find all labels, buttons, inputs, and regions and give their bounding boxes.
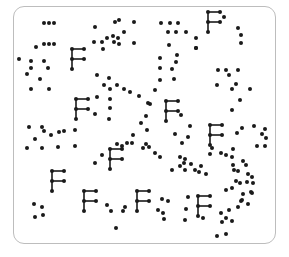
dot <box>102 83 106 87</box>
dot <box>125 141 129 145</box>
dot <box>101 47 105 51</box>
dot <box>183 218 187 222</box>
dot <box>52 42 56 46</box>
dot <box>216 68 220 72</box>
dot <box>168 21 172 25</box>
dot <box>238 181 242 185</box>
dot <box>186 135 190 139</box>
dot <box>263 127 267 131</box>
dot <box>141 146 145 150</box>
dot <box>95 73 99 77</box>
dot <box>114 226 118 230</box>
dot <box>105 203 109 207</box>
dot <box>170 67 174 71</box>
dot <box>52 21 56 25</box>
dot <box>246 172 250 176</box>
dot <box>158 66 162 70</box>
dot <box>49 133 53 137</box>
dot <box>219 151 223 155</box>
dot <box>204 172 208 176</box>
letter-f <box>208 123 224 147</box>
dot <box>220 220 224 224</box>
dot <box>111 34 115 38</box>
dot <box>179 113 183 117</box>
dot <box>108 97 112 101</box>
dot <box>42 42 46 46</box>
dot <box>161 211 165 215</box>
dot <box>107 117 111 121</box>
dot <box>122 87 126 91</box>
dot <box>132 41 136 45</box>
dot <box>241 159 245 163</box>
search-display <box>0 0 289 257</box>
dot <box>42 21 46 25</box>
dot <box>173 132 177 136</box>
dot <box>224 68 228 72</box>
dot <box>236 26 240 30</box>
dot <box>264 136 268 140</box>
dot <box>194 46 198 50</box>
dot <box>166 199 170 203</box>
dot <box>46 66 50 70</box>
f-targets <box>50 10 224 218</box>
dot <box>201 216 205 220</box>
dot <box>131 133 135 137</box>
dot <box>122 30 126 34</box>
dot <box>146 101 150 105</box>
dot <box>227 208 231 212</box>
dot <box>170 168 174 172</box>
dot <box>38 77 42 81</box>
dot <box>27 125 31 129</box>
dot <box>93 161 97 165</box>
dot <box>235 131 239 135</box>
dot <box>178 155 182 159</box>
dot <box>184 30 188 34</box>
dot <box>255 144 259 148</box>
dot <box>252 124 256 128</box>
dot <box>162 217 166 221</box>
letter-f <box>74 97 90 121</box>
dot <box>215 83 219 87</box>
dot <box>263 144 267 148</box>
dot <box>158 78 162 82</box>
dot <box>32 202 36 206</box>
dot <box>153 151 157 155</box>
dot <box>215 234 219 238</box>
dot <box>137 94 141 98</box>
dot <box>238 98 242 102</box>
dot <box>158 56 162 60</box>
dot <box>174 30 178 34</box>
dot <box>194 36 198 40</box>
dot <box>42 59 46 63</box>
dot <box>73 128 77 132</box>
dot <box>100 40 104 44</box>
dot <box>40 205 44 209</box>
dot <box>145 128 149 132</box>
dot <box>239 41 243 45</box>
letter-f <box>50 169 66 193</box>
dot <box>156 208 160 212</box>
dot <box>224 188 228 192</box>
dot <box>159 21 163 25</box>
dot <box>25 72 29 76</box>
dot <box>108 106 112 110</box>
dot <box>42 129 46 133</box>
dot <box>199 164 203 168</box>
letter-f <box>135 189 151 213</box>
letter-f <box>206 10 222 34</box>
dot <box>113 20 117 24</box>
dot <box>236 68 240 72</box>
dot <box>47 21 51 25</box>
dot <box>234 82 238 86</box>
dot <box>121 209 125 213</box>
dot <box>47 87 51 91</box>
dot <box>130 141 134 145</box>
dot <box>158 155 162 159</box>
dot <box>186 195 190 199</box>
dot <box>239 33 243 37</box>
dot <box>160 197 164 201</box>
dot <box>62 129 66 133</box>
dot <box>248 87 252 91</box>
dot <box>47 42 51 46</box>
dot <box>40 146 44 150</box>
